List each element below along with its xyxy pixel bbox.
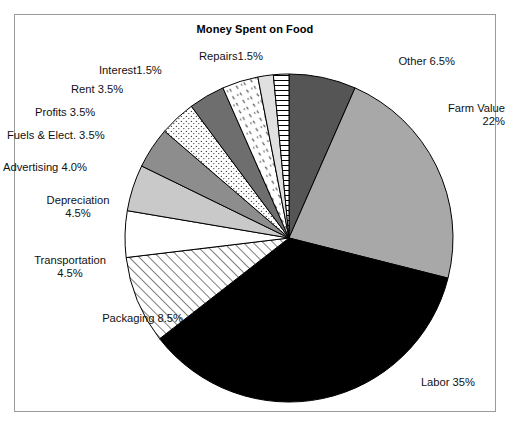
slice-label-rent: Rent 3.5%: [71, 83, 181, 97]
pie-slice-group: [125, 74, 453, 402]
slice-label-farm-value-line1: Farm Value: [419, 102, 505, 116]
slice-label-depreciation-line1: Depreciation: [29, 194, 127, 208]
slice-label-farm-value-line2: 22%: [419, 115, 505, 129]
slice-label-repairs: Repairs1.5%: [178, 50, 284, 64]
slice-label-fuels: Fuels & Elect. 3.5%: [7, 129, 149, 143]
chart-frame: Money Spent on Food: [14, 14, 496, 412]
slice-label-advertising: Advertising 4.0%: [3, 161, 139, 175]
slice-label-depreciation-line2: 4.5%: [29, 207, 127, 221]
slice-label-labor: Labor 35%: [365, 376, 475, 390]
slice-label-transportation-line1: Transportation: [18, 254, 122, 268]
slice-label-transportation-line2: 4.5%: [18, 267, 122, 281]
slice-label-other: Other 6.5%: [355, 55, 455, 69]
slice-label-interest: Interest1.5%: [99, 64, 209, 78]
slice-label-packaging: Packaging 8.5%: [43, 312, 183, 326]
slice-label-profits: Profits 3.5%: [35, 106, 163, 120]
